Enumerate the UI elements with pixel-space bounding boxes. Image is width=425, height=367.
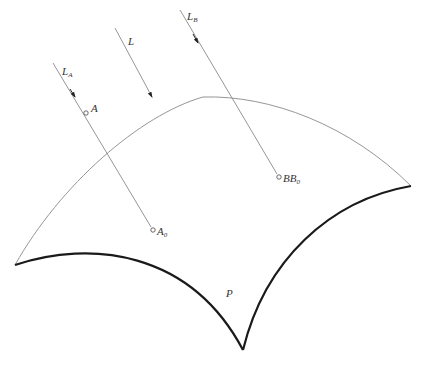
label-l: L — [128, 36, 134, 47]
label-surface-p: P — [226, 288, 233, 299]
surface-projection-diagram — [0, 0, 425, 367]
surface-lower-right-edge — [243, 186, 411, 350]
label-bb0: BB0 — [283, 173, 300, 186]
surface-lower-left-edge — [15, 253, 243, 350]
ray-la — [53, 63, 151, 227]
label-a0: A0 — [157, 226, 167, 239]
surface-upper-edge — [15, 97, 411, 265]
point-a-marker — [84, 111, 88, 115]
label-a: A — [91, 103, 98, 114]
label-la: LA — [62, 66, 72, 79]
ray-lb — [180, 10, 277, 174]
label-lb: LB — [187, 11, 197, 24]
point-a0-marker — [151, 228, 155, 232]
point-bb0-marker — [277, 175, 281, 179]
